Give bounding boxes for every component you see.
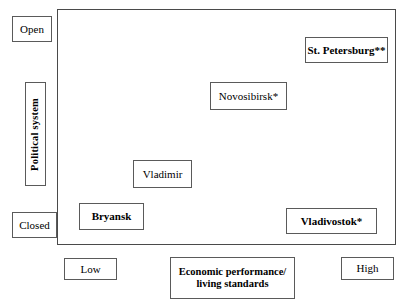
y-axis-title-text: Political system	[29, 98, 41, 171]
x-axis-title-line2: living standards	[196, 278, 268, 290]
x-axis-low-label-text: Low	[80, 263, 100, 276]
data-point-vladivostok: Vladivostok*	[286, 208, 377, 234]
y-axis-low-label: Closed	[12, 212, 57, 238]
data-point-vladimir: Vladimir	[133, 160, 192, 188]
data-point-label: St. Petersburg**	[307, 44, 385, 57]
x-axis-low-label: Low	[64, 258, 117, 280]
data-point-novosibirsk: Novosibirsk*	[210, 82, 287, 110]
x-axis-high-label: High	[341, 257, 394, 280]
y-axis-low-label-text: Closed	[19, 219, 50, 232]
diagram-canvas: Open Political system Closed Low Economi…	[0, 0, 410, 304]
y-axis-high-label: Open	[12, 16, 52, 42]
x-axis-title-line1: Economic performance/	[179, 266, 287, 278]
data-point-st-petersburg: St. Petersburg**	[305, 37, 388, 63]
data-point-label: Vladimir	[143, 168, 183, 181]
data-point-bryansk: Bryansk	[79, 203, 144, 230]
x-axis-title: Economic performance/ living standards	[170, 257, 295, 299]
x-axis-high-label-text: High	[357, 262, 379, 275]
data-point-label: Vladivostok*	[301, 215, 363, 228]
data-point-label: Bryansk	[92, 210, 132, 223]
y-axis-high-label-text: Open	[20, 23, 44, 36]
data-point-label: Novosibirsk*	[219, 90, 278, 103]
y-axis-title: Political system	[25, 82, 46, 186]
